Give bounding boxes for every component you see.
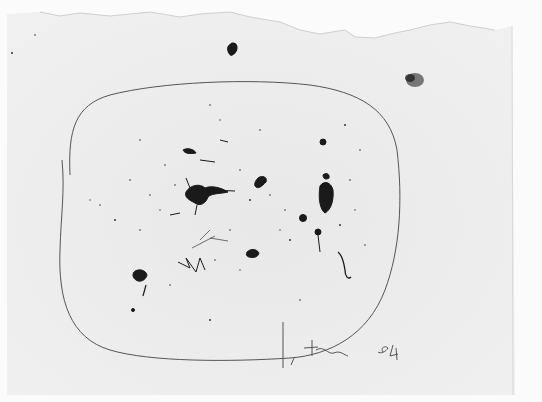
artwork-canvas: [0, 0, 542, 402]
paper-sheet: [7, 12, 515, 395]
artwork-frame: [0, 0, 542, 402]
